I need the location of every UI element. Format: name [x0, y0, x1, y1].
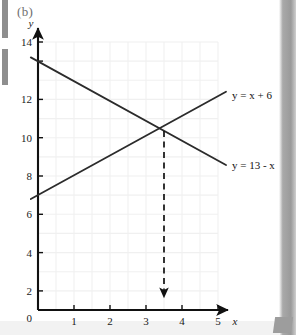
line-label-y-equals-x-plus-6: y = x + 6 [232, 89, 272, 101]
graph-plot-area: 14 12 10 8 6 4 2 0 1 2 3 4 5 y x y = x +… [0, 0, 296, 335]
y-tick-10: 10 [21, 132, 33, 144]
grid-lines [38, 42, 218, 310]
x-tick-2: 2 [107, 315, 113, 327]
x-tick-1: 1 [71, 315, 77, 327]
y-tick-6: 6 [27, 208, 33, 220]
y-tick-8: 8 [27, 170, 33, 182]
y-tick-2: 2 [27, 285, 33, 297]
y-tick-14: 14 [21, 36, 33, 48]
graph-svg: 14 12 10 8 6 4 2 0 1 2 3 4 5 y x y = x +… [0, 0, 296, 335]
figure-page: (b) [0, 0, 296, 335]
x-tick-4: 4 [179, 315, 185, 327]
x-tick-5: 5 [215, 315, 221, 327]
y-axis-label: y [28, 17, 34, 29]
y-tick-labels: 14 12 10 8 6 4 2 [21, 36, 33, 297]
x-axis-label: x [232, 315, 238, 327]
y-tick-4: 4 [27, 247, 33, 259]
line-label-y-equals-13-minus-x: y = 13 - x [232, 159, 275, 171]
x-tick-labels: 1 2 3 4 5 [71, 315, 221, 327]
origin-label: 0 [27, 312, 33, 324]
x-tick-3: 3 [143, 315, 149, 327]
y-tick-12: 12 [21, 93, 32, 105]
